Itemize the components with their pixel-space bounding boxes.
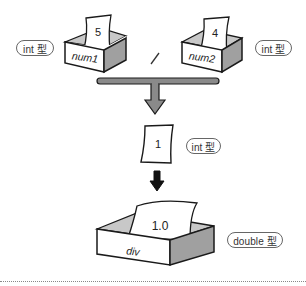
div-type-badge: double 型 <box>227 232 283 248</box>
intermediate-type-badge: int 型 <box>186 138 221 154</box>
division-operator-icon <box>151 53 159 64</box>
intermediate-value: 1 <box>145 138 171 150</box>
num2-type-badge: int 型 <box>255 40 292 56</box>
num1-value: 5 <box>86 26 110 38</box>
div-value: 1.0 <box>135 219 185 233</box>
num1-type-badge: int 型 <box>16 40 54 56</box>
dotted-divider <box>0 281 306 282</box>
merge-arrow-icon <box>97 78 219 114</box>
num2-value: 4 <box>203 27 227 39</box>
down-arrow-icon <box>150 171 164 191</box>
